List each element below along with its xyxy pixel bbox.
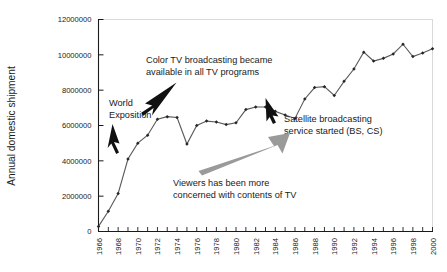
x-tick-label: 1998 bbox=[409, 238, 418, 255]
y-tick-label: 0 bbox=[87, 227, 91, 236]
x-tick-label: 1972 bbox=[153, 238, 162, 255]
x-tick-label: 1996 bbox=[389, 238, 398, 255]
x-tick-label: 1988 bbox=[311, 238, 320, 255]
x-tick-label: 1982 bbox=[252, 238, 261, 255]
annotation-color-tv-line2: available in all TV programs bbox=[146, 67, 260, 77]
x-tick-label: 1966 bbox=[95, 238, 104, 255]
x-tick-label: 1976 bbox=[193, 238, 202, 255]
y-tick-label: 2000000 bbox=[62, 192, 92, 201]
annotation-satellite-line1: Satellite broadcasting bbox=[284, 114, 372, 124]
chart-container: 0200000040000006000000800000010000000120… bbox=[0, 0, 447, 272]
annotation-color-tv-line1: Color TV broadcasting became bbox=[146, 55, 272, 65]
x-tick-label: 1978 bbox=[212, 238, 221, 255]
x-tick-label: 1968 bbox=[114, 238, 123, 255]
y-tick-label: 10000000 bbox=[58, 51, 92, 60]
x-tick-label: 1974 bbox=[173, 238, 182, 255]
y-tick-label: 8000000 bbox=[62, 86, 92, 95]
x-tick-label: 1994 bbox=[370, 238, 379, 255]
y-tick-label: 6000000 bbox=[62, 121, 92, 130]
y-axis-title: Annual domestic shipment bbox=[6, 66, 17, 186]
x-tick-label: 1986 bbox=[291, 238, 300, 255]
annotation-viewers-line2: concerned with contents of TV bbox=[173, 190, 297, 200]
annotation-satellite-line2: service started (BS, CS) bbox=[284, 126, 383, 136]
y-tick-label: 12000000 bbox=[58, 15, 92, 24]
x-tick-label: 1990 bbox=[330, 238, 339, 255]
x-tick-label: 2000 bbox=[429, 238, 438, 255]
y-tick-label: 4000000 bbox=[62, 157, 92, 166]
x-tick-label: 1970 bbox=[134, 238, 143, 255]
x-tick-label: 1984 bbox=[271, 238, 280, 255]
x-tick-label: 1992 bbox=[350, 238, 359, 255]
annotation-viewers-line1: Viewers has been more bbox=[173, 178, 269, 188]
x-tick-label: 1980 bbox=[232, 238, 241, 255]
annotation-world-exposition-line1: World bbox=[109, 98, 133, 108]
line-chart: 0200000040000006000000800000010000000120… bbox=[0, 0, 447, 272]
